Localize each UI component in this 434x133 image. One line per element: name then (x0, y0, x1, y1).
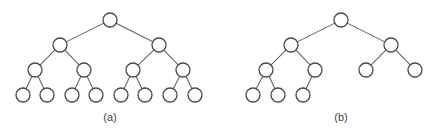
tree-node (16, 88, 30, 102)
tree-edge (40, 50, 55, 65)
tree-edge (87, 76, 93, 88)
tree-edge (256, 76, 263, 89)
tree-edge (186, 76, 192, 88)
tree-edge (269, 76, 275, 88)
tree-node (53, 38, 67, 52)
tree-node (103, 13, 117, 27)
tree-node (246, 88, 260, 102)
tree-edge (75, 76, 81, 88)
tree-node (176, 63, 190, 77)
tree-node (65, 88, 79, 102)
tree-node (308, 63, 322, 77)
tree-node (334, 13, 348, 27)
tree-node (138, 88, 152, 102)
tree-edge (138, 50, 154, 65)
tree-edge (124, 76, 130, 88)
tree-node (284, 38, 298, 52)
tree-edge (136, 76, 142, 88)
tree-node (89, 88, 103, 102)
tree-node (40, 88, 54, 102)
tree-edge (65, 50, 79, 65)
tree-edge (26, 76, 32, 88)
tree-node (163, 88, 177, 102)
tree-node (188, 88, 202, 102)
tree-node (77, 63, 91, 77)
tree-node (359, 63, 373, 77)
tree-edge (173, 76, 180, 89)
tree-edge (371, 50, 386, 65)
tree-node (126, 63, 140, 77)
tree-node (259, 63, 273, 77)
tree-node (152, 38, 166, 52)
tree-edge (66, 23, 103, 42)
tree-node (271, 88, 285, 102)
tree-edge (164, 50, 178, 65)
tree-edge (296, 50, 310, 65)
tree-node (384, 38, 398, 52)
tree-node (296, 88, 310, 102)
binary-trees-figure: (a) (b) (0, 0, 434, 133)
tree-edge (396, 50, 410, 65)
tree-edge (38, 76, 44, 88)
tree-a (16, 13, 202, 102)
tree-diagram-canvas (0, 0, 434, 133)
caption-a: (a) (90, 111, 130, 123)
tree-edge (116, 23, 153, 42)
caption-b: (b) (321, 111, 361, 123)
tree-node (408, 63, 422, 77)
tree-b (246, 13, 422, 102)
tree-edge (271, 50, 286, 65)
tree-node (114, 88, 128, 102)
tree-edge (347, 23, 384, 42)
tree-edge (297, 23, 334, 42)
tree-node (28, 63, 42, 77)
tree-edge (306, 76, 312, 88)
